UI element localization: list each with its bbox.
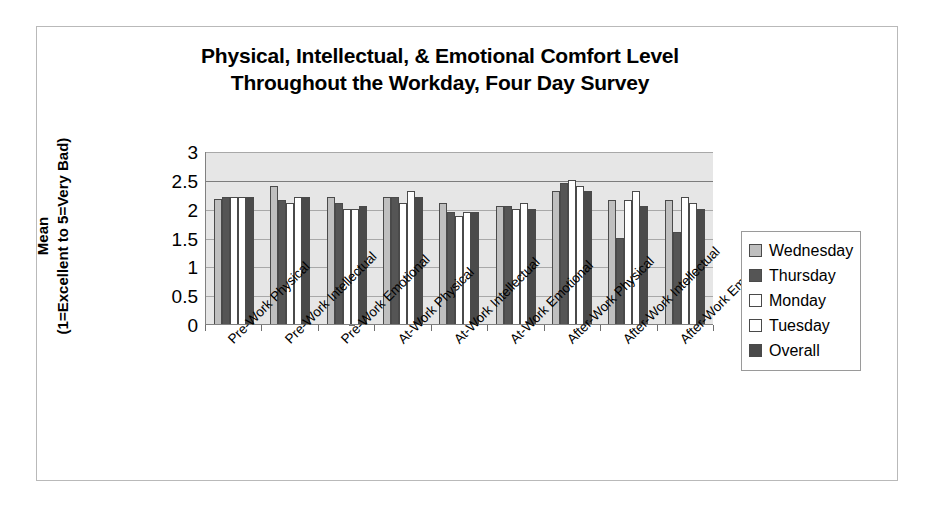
bar[interactable]: [278, 200, 286, 324]
bar[interactable]: [214, 199, 222, 324]
x-axis-tick-mark: [544, 325, 545, 331]
x-axis-tick-mark: [487, 325, 488, 331]
legend-item[interactable]: Thursday: [749, 263, 853, 288]
bar-group: [206, 152, 262, 324]
y-axis-title-line-1: Mean: [33, 121, 53, 351]
x-axis-tick-mark: [600, 325, 601, 331]
x-axis-tick-mark: [205, 325, 206, 331]
bar[interactable]: [512, 209, 520, 324]
x-axis-tick-mark: [318, 325, 319, 331]
y-axis-title: Mean (1=Excellent to 5=Very Bad): [33, 121, 73, 351]
y-axis-tick-labels: 32.521.510.50: [150, 140, 198, 338]
legend-item-label: Monday: [769, 292, 826, 310]
bar[interactable]: [335, 203, 343, 324]
y-axis-tick-label: 0: [187, 316, 198, 335]
bar[interactable]: [568, 180, 576, 324]
y-axis-tick-label: 2.5: [172, 172, 198, 191]
bar[interactable]: [632, 191, 640, 324]
legend-item-label: Overall: [769, 342, 820, 360]
bar[interactable]: [576, 186, 584, 324]
legend-swatch-icon: [749, 319, 762, 332]
chart-canvas: Physical, Intellectual, & Emotional Comf…: [0, 0, 944, 529]
bar[interactable]: [286, 203, 294, 324]
legend-item[interactable]: Monday: [749, 288, 853, 313]
x-axis-tick-mark: [431, 325, 432, 331]
legend-item-label: Thursday: [769, 267, 836, 285]
bar[interactable]: [222, 197, 230, 324]
bar[interactable]: [407, 191, 415, 324]
x-axis-tick-mark: [713, 325, 714, 331]
legend-item[interactable]: Overall: [749, 338, 853, 363]
y-axis-title-line-2: (1=Excellent to 5=Very Bad): [53, 121, 73, 351]
bar[interactable]: [246, 197, 254, 324]
bar[interactable]: [504, 206, 512, 324]
chart-title-line-2: Throughout the Workday, Four Day Survey: [120, 69, 760, 96]
x-axis-tick-mark: [261, 325, 262, 331]
y-axis-tick-label: 1.5: [172, 230, 198, 249]
bar[interactable]: [230, 197, 238, 324]
bar[interactable]: [624, 200, 632, 324]
legend-swatch-icon: [749, 269, 762, 282]
legend-item[interactable]: Tuesday: [749, 313, 853, 338]
legend-swatch-icon: [749, 344, 762, 357]
bar[interactable]: [343, 209, 351, 324]
legend-swatch-icon: [749, 244, 762, 257]
y-axis-tick-label: 1: [187, 258, 198, 277]
bar[interactable]: [238, 197, 246, 324]
x-axis-tick-mark: [657, 325, 658, 331]
legend-swatch-icon: [749, 294, 762, 307]
x-axis-tick-mark: [374, 325, 375, 331]
legend-item[interactable]: Wednesday: [749, 238, 853, 263]
y-axis-tick-label: 3: [187, 143, 198, 162]
y-axis-tick-label: 2: [187, 201, 198, 220]
bar[interactable]: [447, 212, 455, 324]
chart-title: Physical, Intellectual, & Emotional Comf…: [120, 42, 760, 96]
chart-legend: WednesdayThursdayMondayTuesdayOverall: [741, 231, 861, 371]
y-axis-tick-label: 0.5: [172, 287, 198, 306]
chart-title-line-1: Physical, Intellectual, & Emotional Comf…: [120, 42, 760, 69]
bar[interactable]: [681, 197, 689, 324]
legend-item-label: Wednesday: [769, 242, 853, 260]
bar[interactable]: [399, 203, 407, 324]
bar[interactable]: [391, 197, 399, 324]
legend-item-label: Tuesday: [769, 317, 830, 335]
